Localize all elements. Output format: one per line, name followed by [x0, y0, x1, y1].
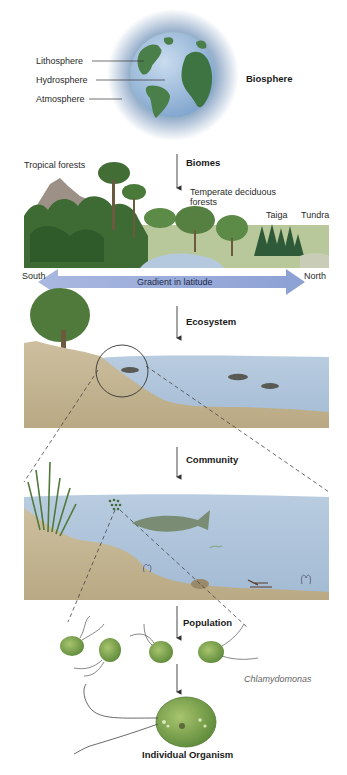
individual-organism-label: Individual Organism — [142, 750, 233, 760]
tree-trunk — [133, 198, 135, 238]
cell — [60, 616, 104, 656]
lithosphere-label: Lithosphere — [36, 56, 83, 66]
community-label: Community — [186, 455, 238, 465]
temperate-trunk — [194, 230, 196, 252]
biomes-label: Biomes — [186, 158, 220, 168]
cell — [198, 624, 258, 663]
population-label: Population — [183, 618, 232, 628]
ecosystem-label: Ecosystem — [186, 317, 236, 327]
temperate-tree-3 — [216, 215, 248, 241]
species-label: Chlamydomonas — [244, 674, 312, 684]
ecology-levels-diagram — [0, 0, 347, 775]
cell — [130, 624, 173, 663]
temperate-forests-label: Temperate deciduous forests — [190, 187, 285, 207]
ecosystem-scene — [24, 341, 329, 428]
tall-tree-trunk — [112, 180, 115, 230]
atmosphere-label: Atmosphere — [36, 94, 85, 104]
tundra-label: Tundra — [301, 210, 329, 220]
south-label: South — [22, 271, 46, 281]
gradient-label: Gradient in latitude — [137, 277, 213, 287]
biosphere-label: Biosphere — [246, 74, 292, 84]
north-label: North — [304, 271, 326, 281]
globe — [89, 9, 239, 141]
fish-icon — [121, 367, 139, 373]
flagellum — [84, 684, 158, 718]
taiga-label: Taiga — [266, 210, 288, 220]
fish-icon — [228, 374, 248, 380]
temperate-trunk — [231, 238, 233, 256]
tundra-ground — [300, 253, 329, 268]
temperate-tree-1 — [144, 208, 176, 228]
temperate-tree-2 — [175, 206, 215, 234]
hydrosphere-label: Hydrosphere — [36, 75, 88, 85]
tropical-forests-label: Tropical forests — [24, 160, 85, 170]
tree-canopy — [122, 184, 146, 200]
chlamydomonas-individual — [74, 684, 216, 754]
fish-icon — [261, 383, 279, 389]
community-scene — [24, 462, 329, 600]
